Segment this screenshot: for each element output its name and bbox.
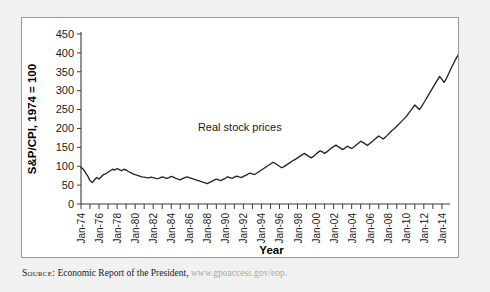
- y-tick-label: 450: [56, 28, 74, 40]
- x-tick-label: Jan-10: [401, 213, 412, 244]
- x-tick-label: Jan-90: [220, 213, 231, 244]
- x-tick-label: Jan-84: [166, 213, 177, 244]
- chart-annotations: Real stock prices: [198, 121, 282, 133]
- series-line-real-stock-prices: [81, 48, 458, 184]
- y-tick-label: 250: [56, 103, 74, 115]
- x-tick-label: Jan-00: [311, 213, 322, 244]
- figure-container: 050100150200250300350400450 Jan-74Jan-76…: [0, 0, 490, 292]
- source-text: Economic Report of the President,: [57, 268, 188, 278]
- source-note: Source: Economic Report of the President…: [22, 268, 287, 278]
- chart-annotation-label: Real stock prices: [198, 121, 282, 133]
- x-tick-label: Jan-86: [184, 213, 195, 244]
- x-axis-title: Year: [259, 244, 284, 256]
- y-tick-label: 150: [56, 141, 74, 153]
- x-tick-label: Jan-76: [94, 213, 105, 244]
- source-url: www.gpoaccess.gov/eop.: [191, 268, 287, 278]
- y-tick-label: 0: [68, 198, 74, 210]
- x-tick-label: Jan-08: [383, 213, 394, 244]
- y-tick-label: 50: [62, 179, 74, 191]
- y-tick-label: 350: [56, 66, 74, 78]
- y-tick-label: 400: [56, 47, 74, 59]
- data-series-group: [81, 48, 458, 184]
- x-tick-label: Jan-12: [419, 213, 430, 244]
- x-tick-label: Jan-96: [274, 213, 285, 244]
- x-axis: Jan-74Jan-76Jan-78Jan-80Jan-82Jan-84Jan-…: [76, 204, 450, 244]
- y-axis: 050100150200250300350400450: [56, 28, 81, 210]
- x-tick-label: Jan-06: [365, 213, 376, 244]
- x-tick-label: Jan-14: [437, 213, 448, 244]
- x-tick-label: Jan-98: [293, 213, 304, 244]
- y-tick-label: 300: [56, 84, 74, 96]
- source-label: Source:: [22, 268, 55, 278]
- y-tick-label: 100: [56, 160, 74, 172]
- x-tick-label: Jan-80: [130, 213, 141, 244]
- y-axis-title: S&P/CPI, 1974 = 100: [26, 64, 38, 174]
- x-tick-label: Jan-78: [112, 213, 123, 244]
- x-tick-label: Jan-88: [202, 213, 213, 244]
- real-stock-prices-chart: 050100150200250300350400450 Jan-74Jan-76…: [22, 18, 458, 257]
- x-tick-label: Jan-94: [256, 213, 267, 244]
- x-tick-label: Jan-92: [238, 213, 249, 244]
- y-tick-label: 200: [56, 122, 74, 134]
- chart-plot-frame: 050100150200250300350400450 Jan-74Jan-76…: [21, 17, 459, 258]
- x-tick-label: Jan-02: [329, 213, 340, 244]
- x-tick-label: Jan-82: [148, 213, 159, 244]
- x-tick-label: Jan-74: [76, 213, 87, 244]
- x-tick-label: Jan-04: [347, 213, 358, 244]
